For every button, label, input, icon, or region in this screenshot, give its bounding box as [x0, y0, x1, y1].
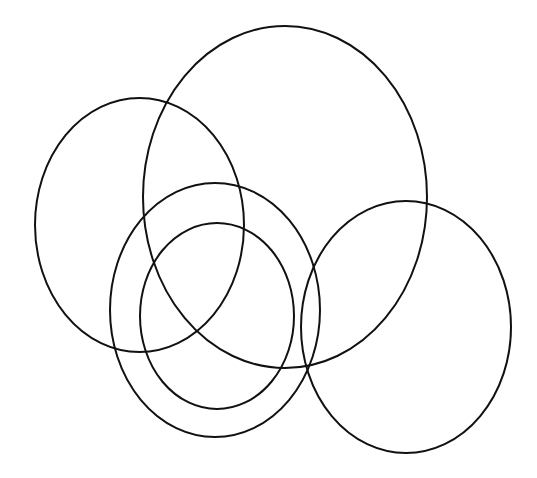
ellipse-diagram [0, 0, 537, 478]
middle-outer-ellipse [110, 183, 320, 437]
right-ellipse [301, 201, 511, 453]
large-top-ellipse [143, 26, 427, 368]
middle-inner-ellipse [140, 223, 294, 409]
